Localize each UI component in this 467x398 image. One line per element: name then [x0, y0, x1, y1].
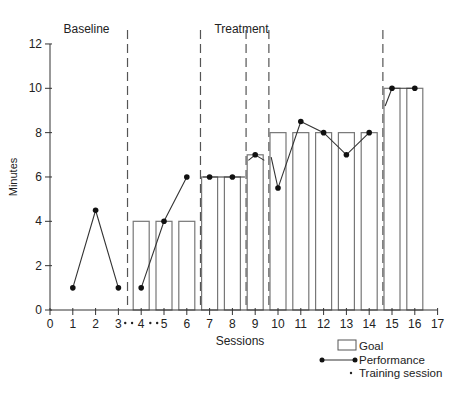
- x-tick-label: 12: [317, 317, 331, 331]
- x-tick-label: 11: [295, 317, 308, 331]
- goal-bar: [293, 133, 309, 310]
- goal-bar: [224, 177, 240, 310]
- legend-performance-dot: [320, 358, 325, 363]
- training-session-marker: [131, 322, 133, 324]
- x-tick-label: 13: [340, 317, 354, 331]
- y-tick-label: 2: [35, 259, 42, 273]
- x-tick-label: 15: [385, 317, 399, 331]
- y-tick-label: 4: [35, 214, 42, 228]
- phase-labels: BaselineTreatment: [63, 22, 269, 36]
- x-tick-label: 2: [92, 317, 99, 331]
- goal-bar: [338, 133, 354, 310]
- legend-performance-dot: [353, 358, 358, 363]
- phase-label: Baseline: [63, 22, 109, 36]
- x-axis-label: Sessions: [216, 334, 265, 348]
- y-tick-label: 10: [29, 81, 43, 95]
- performance-point: [366, 130, 372, 136]
- goal-bar: [156, 221, 172, 310]
- goal-bar: [202, 177, 218, 310]
- performance-point: [412, 86, 418, 92]
- legend: GoalPerformanceTraining session: [320, 340, 443, 380]
- phase-label: Treatment: [214, 22, 269, 36]
- goal-bar: [384, 88, 400, 310]
- legend-goal-label: Goal: [359, 340, 383, 352]
- legend-training-marker: [350, 372, 352, 374]
- legend-training-label: Training session: [359, 367, 442, 379]
- x-tick-label: 7: [206, 317, 213, 331]
- performance-point: [70, 285, 76, 291]
- performance-point: [207, 174, 213, 180]
- x-tick-label: 14: [363, 317, 377, 331]
- y-tick-label: 12: [29, 37, 43, 51]
- performance-point: [184, 174, 190, 180]
- x-tick-label: 0: [47, 317, 54, 331]
- x-tick-label: 3: [115, 317, 122, 331]
- performance-point: [116, 285, 122, 291]
- goal-bar: [247, 155, 263, 310]
- performance-point: [93, 207, 99, 213]
- x-tick-label: 10: [271, 317, 285, 331]
- performance-point: [344, 152, 350, 158]
- x-tick-label: 9: [252, 317, 259, 331]
- legend-performance-label: Performance: [359, 354, 425, 366]
- x-tick-label: 6: [183, 317, 190, 331]
- performance-point: [298, 119, 304, 125]
- y-tick-label: 8: [35, 126, 42, 140]
- x-tick-label: 1: [69, 317, 76, 331]
- chart: 02468101201234567891011121314151617 Base…: [0, 0, 467, 398]
- x-tick-label: 4: [138, 317, 145, 331]
- performance-point: [252, 152, 258, 158]
- x-tick-label: 5: [161, 317, 168, 331]
- y-tick-label: 6: [35, 170, 42, 184]
- x-tick-label: 17: [431, 317, 445, 331]
- goal-bar: [316, 133, 332, 310]
- legend-goal-swatch: [338, 340, 356, 350]
- training-session-marker: [149, 322, 151, 324]
- y-tick-label: 0: [35, 303, 42, 317]
- performance-point: [275, 185, 281, 191]
- training-session-marker: [124, 322, 126, 324]
- performance-point: [389, 86, 395, 92]
- performance-segment: [73, 210, 119, 288]
- goal-bar: [361, 133, 377, 310]
- performance-point: [161, 219, 167, 225]
- training-session-marker: [156, 322, 158, 324]
- x-tick-label: 8: [229, 317, 236, 331]
- performance-point: [321, 130, 327, 136]
- goal-bar: [179, 221, 195, 310]
- goal-bar: [407, 88, 423, 310]
- goal-bars: [133, 88, 423, 310]
- performance-point: [230, 174, 236, 180]
- goal-bar: [270, 133, 286, 310]
- x-tick-label: 16: [408, 317, 422, 331]
- goal-bar: [133, 221, 149, 310]
- performance-point: [138, 285, 144, 291]
- y-axis-label: Minutes: [7, 157, 19, 196]
